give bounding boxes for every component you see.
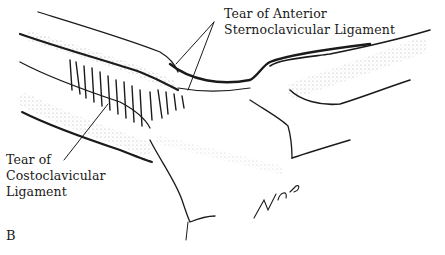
label-line: Tear of xyxy=(6,152,106,168)
costoclavicular-ligament-label: Tear of Costoclavicular Ligament xyxy=(6,152,106,200)
sternoclavicular-joint-illustration xyxy=(0,0,445,255)
panel-letter: B xyxy=(6,228,16,244)
signature xyxy=(254,186,299,218)
label-line: Ligament xyxy=(6,184,106,200)
label-line: Costoclavicular xyxy=(6,168,106,184)
label-line: Tear of Anterior xyxy=(224,6,395,22)
label-line: Sternoclavicular Ligament xyxy=(224,22,395,38)
pointer-line xyxy=(176,22,214,64)
anterior-ligament-label: Tear of Anterior Sternoclavicular Ligame… xyxy=(224,6,395,38)
